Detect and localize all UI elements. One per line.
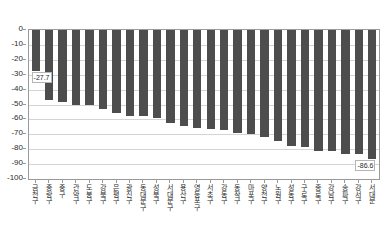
y-tick-mark: [23, 29, 26, 30]
x-tick-label: 동대문구: [139, 184, 146, 210]
x-tick-mark: [264, 180, 265, 183]
x-tick-label: 양천구: [260, 184, 267, 204]
x-tick-mark: [223, 180, 224, 183]
x-tick-mark: [277, 180, 278, 183]
x-tick-label: 관악구: [72, 184, 79, 204]
x-tick-label: 금천구: [31, 184, 38, 204]
y-tick-mark: [23, 148, 26, 149]
x-tick-label: 구로구: [300, 184, 307, 204]
bar: [45, 30, 53, 100]
bar: [166, 30, 174, 123]
x-tick-label: 마포구: [247, 184, 254, 204]
data-label: -27.7: [32, 72, 52, 83]
x-tick-mark: [358, 180, 359, 183]
x-tick-mark: [210, 180, 211, 183]
x-tick-label: 용산구: [179, 184, 186, 204]
x-tick-mark: [35, 180, 36, 183]
x-tick-mark: [75, 180, 76, 183]
bar: [139, 30, 147, 116]
y-axis: 0-10-20-30-40-50-60-70-80-90-100: [0, 29, 26, 180]
x-axis: 금천구중랑구중구관악구도봉구강북구은평구광진구동대문구성북구서대문구용산구영등포…: [28, 180, 380, 228]
x-tick-label: 송파구: [341, 184, 348, 204]
y-tick-label: -70: [11, 129, 23, 137]
x-tick-mark: [331, 180, 332, 183]
x-tick-mark: [102, 180, 103, 183]
bar: [247, 30, 255, 134]
x-tick-label: 은평구: [112, 184, 119, 204]
plot-area: -27.7-86.6: [28, 29, 380, 180]
bar: [126, 30, 134, 116]
x-tick-label: 강남구: [327, 184, 334, 204]
x-tick-mark: [250, 180, 251, 183]
y-tick-mark: [23, 59, 26, 60]
x-tick-label: 종로구: [314, 184, 321, 204]
bar: [368, 30, 376, 159]
bar: [112, 30, 120, 113]
x-tick-label: 중랑구: [45, 184, 52, 204]
bar: [58, 30, 66, 102]
y-tick-label: -20: [11, 55, 23, 63]
bar: [99, 30, 107, 109]
bar: [220, 30, 228, 130]
bar: [85, 30, 93, 105]
bar: [328, 30, 336, 151]
x-tick-mark: [183, 180, 184, 183]
bar: [355, 30, 363, 154]
y-tick-label: -40: [11, 85, 23, 93]
y-tick-mark: [23, 178, 26, 179]
data-label: -86.6: [355, 160, 375, 171]
bar: [153, 30, 161, 118]
y-tick-label: -10: [11, 40, 23, 48]
x-tick-label: 중구: [58, 184, 65, 197]
bar: [180, 30, 188, 126]
x-tick-label: 도봉구: [85, 184, 92, 204]
y-tick-label: -80: [11, 144, 23, 152]
x-tick-mark: [129, 180, 130, 183]
x-tick-mark: [169, 180, 170, 183]
x-tick-label: 노원구: [274, 184, 281, 204]
x-tick-mark: [304, 180, 305, 183]
x-tick-mark: [237, 180, 238, 183]
y-tick-mark: [23, 104, 26, 105]
y-tick-mark: [23, 89, 26, 90]
x-tick-label: 서초구: [206, 184, 213, 204]
bar: [314, 30, 322, 151]
x-tick-mark: [48, 180, 49, 183]
x-tick-label: 강북구: [99, 184, 106, 204]
y-tick-label: -60: [11, 114, 23, 122]
x-tick-mark: [291, 180, 292, 183]
x-tick-label: 강서구: [354, 184, 361, 204]
x-tick-label: 광진구: [125, 184, 132, 204]
bar: [260, 30, 268, 137]
y-tick-mark: [23, 163, 26, 164]
y-tick-label: -100: [7, 174, 23, 182]
bar: [207, 30, 215, 129]
x-tick-mark: [317, 180, 318, 183]
x-tick-label: 서대문: [368, 184, 375, 204]
x-tick-mark: [156, 180, 157, 183]
bar: [301, 30, 309, 147]
x-tick-mark: [196, 180, 197, 183]
x-tick-label: 강동구: [220, 184, 227, 204]
y-tick-mark: [23, 118, 26, 119]
bar: [274, 30, 282, 141]
x-tick-label: 영등포구: [193, 184, 200, 210]
x-tick-mark: [142, 180, 143, 183]
y-tick-label: -90: [11, 159, 23, 167]
bar: [287, 30, 295, 146]
y-tick-mark: [23, 44, 26, 45]
x-tick-mark: [371, 180, 372, 183]
x-tick-label: 동작구: [233, 184, 240, 204]
x-tick-mark: [116, 180, 117, 183]
x-tick-mark: [344, 180, 345, 183]
x-tick-mark: [62, 180, 63, 183]
x-tick-mark: [89, 180, 90, 183]
bars-layer: -27.7-86.6: [29, 30, 379, 179]
y-tick-mark: [23, 74, 26, 75]
x-tick-label: 서대문구: [166, 184, 173, 210]
x-tick-label: 성동구: [287, 184, 294, 204]
bar: [341, 30, 349, 154]
x-tick-label: 성북구: [152, 184, 159, 204]
bar-chart: 0-10-20-30-40-50-60-70-80-90-100 -27.7-8…: [0, 0, 388, 228]
bar: [233, 30, 241, 133]
